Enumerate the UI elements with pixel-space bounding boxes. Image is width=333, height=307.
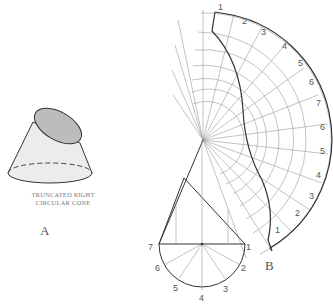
svg-text:3: 3 <box>223 284 228 294</box>
svg-text:6: 6 <box>309 77 314 87</box>
svg-text:4: 4 <box>316 170 321 180</box>
figure-a-caption: TRUNCATED RIGHT CIRCULAR CONE <box>24 191 102 207</box>
caption-line-2: CIRCULAR CONE <box>24 199 102 207</box>
svg-text:4: 4 <box>282 41 287 51</box>
outer-arc-labels: 1 2 3 4 5 6 7 6 5 4 3 2 1 <box>218 2 325 235</box>
svg-text:7: 7 <box>148 242 153 252</box>
drawing-canvas: 1 2 3 4 5 6 7 6 5 4 3 2 1 1 2 3 4 5 6 7 <box>0 0 333 307</box>
svg-text:2: 2 <box>241 263 246 273</box>
figure-a-label: A <box>40 223 49 239</box>
truncated-cone-figure-a <box>8 101 92 183</box>
svg-text:5: 5 <box>320 146 325 156</box>
svg-text:2: 2 <box>242 16 247 26</box>
svg-text:6: 6 <box>155 263 160 273</box>
svg-text:3: 3 <box>309 191 314 201</box>
svg-text:1: 1 <box>246 242 251 252</box>
svg-text:3: 3 <box>261 27 266 37</box>
figure-b-label: B <box>265 258 274 274</box>
base-circle-labels: 1 2 3 4 5 6 7 <box>148 242 251 303</box>
svg-text:1: 1 <box>218 2 223 12</box>
svg-text:6: 6 <box>320 122 325 132</box>
svg-text:4: 4 <box>199 293 204 303</box>
svg-text:1: 1 <box>275 225 280 235</box>
svg-text:7: 7 <box>316 98 321 108</box>
svg-text:5: 5 <box>298 58 303 68</box>
caption-line-1: TRUNCATED RIGHT <box>24 191 102 199</box>
svg-text:5: 5 <box>173 283 178 293</box>
svg-text:2: 2 <box>295 208 300 218</box>
